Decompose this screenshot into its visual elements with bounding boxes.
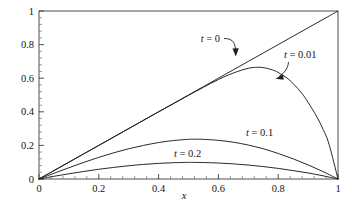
t-0-annotation-arrow xyxy=(224,39,236,50)
y-tick-labels: 0 0.2 0.4 0.6 0.8 1 xyxy=(21,6,35,185)
t-0-annotation: t = 0 xyxy=(201,33,239,57)
x-tick-label-0.4: 0.4 xyxy=(152,183,166,194)
t-001-annotation-arrowhead xyxy=(276,74,284,80)
y-tick-label-0.4: 0.4 xyxy=(21,106,35,117)
x-axis-ticks xyxy=(39,174,338,179)
y-tick-label-1: 1 xyxy=(29,6,34,17)
x-tick-label-0.6: 0.6 xyxy=(212,183,225,194)
chart-figure: 0 0.2 0.4 0.6 0.8 1 0 0.2 0.4 0.6 0.8 1 … xyxy=(0,0,352,212)
x-tick-labels: 0 0.2 0.4 0.6 0.8 1 xyxy=(36,183,340,194)
t-001-annotation: t = 0.01 xyxy=(276,49,317,80)
y-tick-label-0.2: 0.2 xyxy=(21,140,34,151)
y-axis-ticks xyxy=(39,11,44,179)
t-01-annotation: t = 0.1 xyxy=(246,127,273,138)
t-02-annotation: t = 0.2 xyxy=(174,148,201,159)
x-tick-label-0.2: 0.2 xyxy=(92,183,105,194)
y-tick-label-0.6: 0.6 xyxy=(21,73,34,84)
curve-t-0.2 xyxy=(39,162,338,179)
curve-t-0.1 xyxy=(39,139,338,179)
t-02-annotation-label: t = 0.2 xyxy=(174,148,201,159)
x-tick-label-0.8: 0.8 xyxy=(272,183,285,194)
y-tick-label-0: 0 xyxy=(29,174,34,185)
t-001-annotation-label: t = 0.01 xyxy=(284,49,316,60)
t-0-annotation-arrowhead xyxy=(233,48,239,56)
t-0-annotation-label: t = 0 xyxy=(201,33,220,44)
x-axis-title: x xyxy=(181,190,187,201)
t-01-annotation-label: t = 0.1 xyxy=(246,127,273,138)
x-tick-label-0: 0 xyxy=(36,183,41,194)
x-tick-label-1: 1 xyxy=(335,183,340,194)
plot-svg: 0 0.2 0.4 0.6 0.8 1 0 0.2 0.4 0.6 0.8 1 … xyxy=(0,0,352,212)
y-tick-label-0.8: 0.8 xyxy=(21,39,34,50)
